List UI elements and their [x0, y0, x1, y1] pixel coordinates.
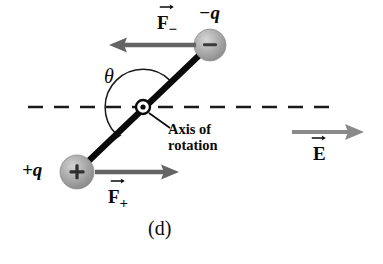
theta-label: θ: [104, 66, 114, 86]
axis-of-rotation-line1: Axis of: [168, 122, 218, 138]
electric-field-arrow: [292, 124, 364, 140]
force-plus-letter: F: [108, 186, 120, 208]
positive-charge-label: +q: [22, 160, 42, 179]
negative-charge-label: −q: [199, 3, 220, 22]
electric-field-letter: E: [313, 143, 326, 165]
force-minus-arrow: [109, 38, 196, 53]
positive-charge-sphere: [60, 155, 94, 189]
force-plus-arrow: [95, 165, 179, 180]
force-plus-subscript: +: [120, 195, 129, 212]
electric-field-label: E: [313, 143, 326, 165]
force-minus-label: F−: [157, 12, 177, 34]
dipole-torque-figure: −q +q θ Axis of rotation F− F+ E (d): [0, 0, 383, 264]
force-plus-label: F+: [108, 186, 128, 208]
force-minus-letter: F: [157, 12, 169, 34]
axis-of-rotation-label: Axis of rotation: [168, 122, 218, 153]
axis-of-rotation-pivot: [136, 100, 150, 114]
panel-label: (d): [148, 218, 171, 238]
force-minus-subscript: −: [169, 21, 178, 38]
axis-label-leader-line: [149, 113, 170, 128]
negative-charge-sphere: [194, 29, 226, 61]
axis-of-rotation-line2: rotation: [168, 138, 218, 154]
